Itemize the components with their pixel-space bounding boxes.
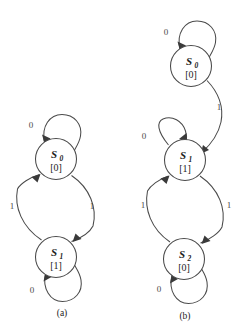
transition-label-a-s1-self: 0	[30, 285, 35, 295]
state-node-a-s1[interactable]: S 1 [1]	[36, 237, 77, 278]
state-node-a-s0[interactable]: S 0 [0]	[36, 139, 77, 180]
state-output-a-s1: [1]	[50, 260, 62, 271]
state-node-b-s1[interactable]: S 1 [1]	[165, 140, 206, 181]
transition-b-s2-to-s1: 1	[141, 176, 170, 243]
transition-label-b-s0-to-s1: 1	[217, 102, 222, 112]
transition-a-s0-to-s1: 1	[72, 176, 95, 243]
transition-label-b-s2-self: 0	[157, 284, 162, 294]
edge-path	[17, 175, 42, 241]
edge-path	[200, 176, 223, 243]
transition-label-b-s1-to-s2: 1	[227, 200, 232, 210]
state-name-a-s0: S	[51, 148, 57, 160]
state-name-b-s2: S	[179, 248, 185, 260]
state-name-b-s0: S	[186, 55, 192, 67]
state-node-b-s2[interactable]: S 2 [0]	[164, 239, 205, 280]
diagram-a: 0 0 1 1 S	[10, 115, 95, 320]
transition-label-b-s1-self: 0	[142, 131, 147, 141]
state-name-b-s1: S	[180, 149, 186, 161]
edge-path	[147, 176, 170, 242]
figure-caption-a: (a)	[57, 308, 68, 319]
transition-label-a-s1-to-s0: 1	[10, 201, 15, 211]
state-output-a-s0: [0]	[50, 162, 62, 173]
state-output-b-s2: [0]	[178, 262, 190, 273]
transition-label-b-s0-self: 0	[164, 27, 169, 37]
transition-b-s0-to-s1: 1	[201, 81, 222, 155]
state-node-b-s0[interactable]: S 0 [0]	[171, 46, 212, 87]
transition-b-s1-to-s2: 1	[200, 176, 231, 244]
figure-canvas: 0 0 1 1 S	[0, 0, 242, 332]
transition-label-a-s0-to-s1: 1	[90, 201, 95, 211]
state-name-a-s1: S	[51, 246, 57, 258]
transition-a-s1-to-s0: 1	[10, 174, 42, 240]
transition-label-b-s2-to-s1: 1	[141, 200, 146, 210]
state-output-b-s0: [0]	[185, 69, 197, 80]
figure-caption-b: (b)	[179, 311, 190, 322]
state-diagram-figure: 0 0 1 1 S	[0, 0, 242, 332]
edge-path	[202, 81, 222, 153]
diagram-b: 0 1 0 1	[141, 21, 232, 322]
state-output-b-s1: [1]	[179, 163, 191, 174]
arrowhead	[202, 236, 211, 245]
transition-label-a-s0-self: 0	[29, 120, 34, 130]
